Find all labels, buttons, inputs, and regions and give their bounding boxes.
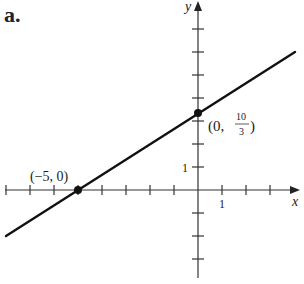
point-y-intercept-label: (0, 10 3 ) bbox=[208, 111, 255, 137]
point-y-intercept bbox=[194, 109, 202, 117]
fraction-numerator: 10 bbox=[236, 111, 246, 122]
fraction-denominator: 3 bbox=[239, 126, 244, 137]
line-graph: a. x y 1 1 (−5, 0) (0, 10 3 ) bbox=[0, 0, 304, 284]
x-axis-label: x bbox=[291, 194, 299, 209]
point-x-intercept bbox=[74, 186, 82, 194]
panel-label: a. bbox=[4, 2, 21, 27]
x-axis-arrow-icon bbox=[290, 186, 300, 194]
data-line bbox=[6, 52, 295, 236]
y-axis-arrow-icon bbox=[194, 1, 202, 11]
label-prefix: (0, bbox=[208, 118, 224, 135]
point-x-intercept-label: (−5, 0) bbox=[30, 169, 69, 185]
y-axis bbox=[192, 8, 204, 278]
y-tick-label: 1 bbox=[182, 161, 188, 175]
x-tick-label: 1 bbox=[219, 197, 225, 211]
x-axis bbox=[5, 185, 294, 195]
y-axis-label: y bbox=[183, 0, 192, 14]
label-suffix: ) bbox=[250, 118, 255, 135]
